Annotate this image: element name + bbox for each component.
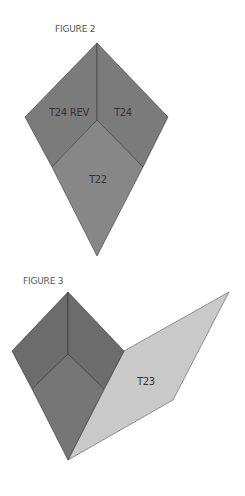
figure-3: T23 [12,292,229,460]
label-t24: T24 [113,107,132,118]
figures-canvas: T24 REV T24 T22 T23 [0,0,245,496]
label-t24-rev: T24 REV [48,107,89,118]
figure-3-title: FIGURE 3 [23,276,63,286]
label-t23: T23 [136,376,155,387]
figure-2: T24 REV T24 T22 [25,43,168,256]
label-t22: T22 [88,174,107,185]
